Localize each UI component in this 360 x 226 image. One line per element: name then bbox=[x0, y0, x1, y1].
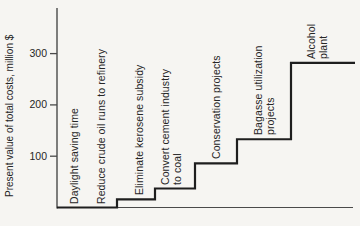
step-label: Eliminate kerosene subsidy bbox=[133, 65, 145, 195]
step-label: Daylight saving time bbox=[68, 108, 80, 204]
y-tick-label: 100 bbox=[29, 150, 47, 162]
step-label: Bagasse utilization projects bbox=[252, 46, 276, 135]
y-tick-label: 200 bbox=[29, 98, 47, 110]
step-label: Alcohol plant bbox=[305, 24, 329, 59]
step-label: Conservation projects bbox=[210, 56, 222, 160]
y-tick-label: 300 bbox=[29, 47, 47, 59]
y-axis-title: Present value of total costs, million $ bbox=[4, 35, 16, 197]
step-cost-chart: 100200300 Present value of total costs, … bbox=[0, 0, 360, 226]
step-label: Reduce crude oil runs to refinery bbox=[95, 48, 107, 203]
step-label: Convert cement industry to coal bbox=[159, 68, 183, 184]
